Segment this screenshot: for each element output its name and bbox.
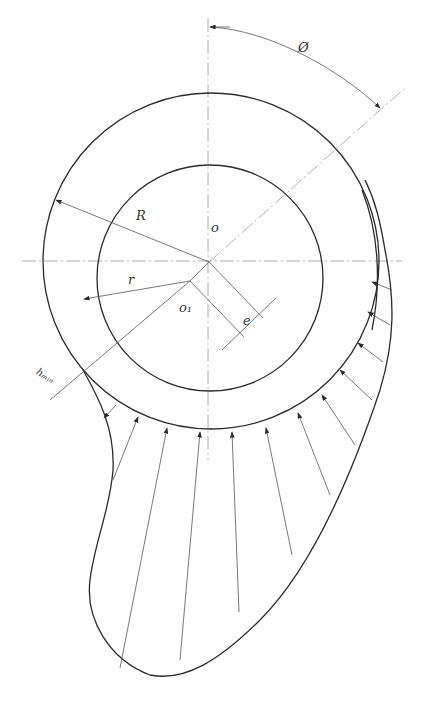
label-R: R [136, 208, 146, 223]
label-r: r [128, 272, 134, 287]
r-dimension [84, 281, 190, 299]
hmin-dimension [50, 281, 190, 400]
label-O: o [211, 220, 219, 235]
label-e: e [243, 313, 251, 328]
pressure-envelope [83, 180, 392, 676]
bearing-diagram [0, 0, 423, 707]
e-dimension [190, 262, 276, 350]
phi-arc [210, 27, 380, 108]
label-O1: o₁ [179, 300, 192, 315]
label-phi: Ø [298, 40, 309, 55]
R-dimension [56, 200, 209, 262]
centerlines [22, 18, 405, 460]
